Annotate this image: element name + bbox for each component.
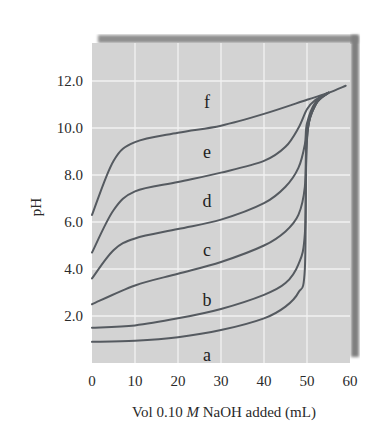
x-axis-title: Vol 0.10 M NaOH added (mL): [132, 404, 316, 421]
x-tick-label: 40: [257, 373, 272, 389]
y-tick-label: 2.0: [64, 308, 83, 324]
curve-label-d: d: [203, 191, 212, 211]
curve-label-e: e: [203, 142, 211, 162]
y-tick-label: 10.0: [57, 120, 83, 136]
y-axis-title: pH: [28, 198, 44, 217]
curve-label-a: a: [203, 345, 211, 365]
x-tick-label: 50: [300, 373, 315, 389]
x-tick-label: 0: [88, 373, 96, 389]
y-tick-label: 6.0: [64, 214, 83, 230]
curve-label-b: b: [203, 290, 212, 310]
y-tick-label: 12.0: [57, 73, 83, 89]
titration-chart: abcdef 0102030405060 2.04.06.08.010.012.…: [0, 0, 380, 434]
x-axis-ticks: 0102030405060: [88, 373, 357, 389]
x-tick-label: 60: [343, 373, 358, 389]
curve-label-f: f: [204, 92, 210, 112]
x-tick-label: 10: [128, 373, 143, 389]
x-tick-label: 30: [214, 373, 229, 389]
y-tick-label: 8.0: [64, 167, 83, 183]
y-tick-label: 4.0: [64, 261, 83, 277]
y-axis-ticks: 2.04.06.08.010.012.0: [57, 73, 83, 324]
curve-label-c: c: [203, 240, 211, 260]
x-tick-label: 20: [171, 373, 186, 389]
